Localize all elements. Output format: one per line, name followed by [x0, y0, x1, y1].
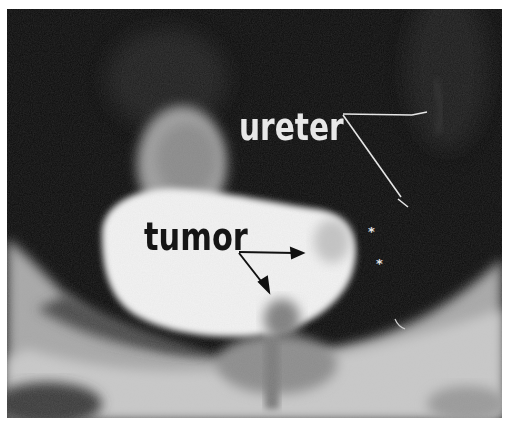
asterisk-marker: *: [376, 257, 383, 270]
asterisk-marker: *: [368, 225, 375, 238]
tumor-label: tumor: [144, 217, 248, 256]
radiograph-frame: ureter tumor * *: [7, 9, 502, 418]
radiograph-image: [7, 9, 502, 418]
ureter-label: ureter: [239, 108, 344, 146]
